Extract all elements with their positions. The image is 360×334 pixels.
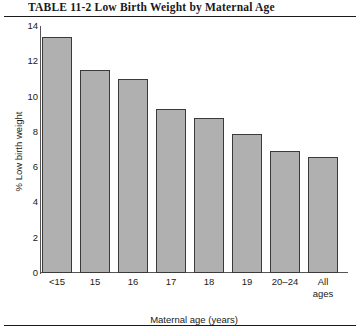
bar-slot <box>270 26 308 273</box>
x-tick-label: All ages <box>308 276 346 299</box>
y-tick-label: 8 <box>16 127 38 137</box>
bar-slot <box>232 26 270 273</box>
bar-slot <box>194 26 232 273</box>
x-tick-label: 16 <box>118 276 156 299</box>
y-tick-label: 0 <box>16 268 38 278</box>
x-axis-ticks: <15151617181920–24All ages <box>42 276 348 299</box>
title-divider <box>4 16 356 17</box>
bar[interactable] <box>308 157 338 273</box>
bar[interactable] <box>232 134 262 273</box>
y-tick-label: 6 <box>16 162 38 172</box>
x-axis-title: Maternal age (years) <box>40 314 348 325</box>
y-tick-label: 2 <box>16 233 38 243</box>
bar-slot <box>156 26 194 273</box>
y-tick-label: 4 <box>16 197 38 207</box>
table-title: TABLE 11-2 Low Birth Weight by Maternal … <box>28 1 275 13</box>
bar-slot <box>80 26 118 273</box>
x-tick-label: 18 <box>194 276 232 299</box>
bar[interactable] <box>270 151 300 273</box>
bar-chart: % Low birth weight 14121086420 <15151617… <box>0 18 360 318</box>
plot-area <box>42 26 348 273</box>
y-axis-ticks: 14121086420 <box>12 18 38 278</box>
figure-page: TABLE 11-2 Low Birth Weight by Maternal … <box>0 0 360 334</box>
x-tick-label: 15 <box>80 276 118 299</box>
bar[interactable] <box>42 37 72 273</box>
bar-series <box>42 26 348 273</box>
bar[interactable] <box>80 70 110 273</box>
bar-slot <box>118 26 156 273</box>
x-tick-label: 19 <box>232 276 270 299</box>
x-tick-label: 20–24 <box>270 276 308 299</box>
x-tick-label: <15 <box>42 276 80 299</box>
x-tick-label: 17 <box>156 276 194 299</box>
bottom-divider <box>4 325 356 326</box>
table-title-block: TABLE 11-2 Low Birth Weight by Maternal … <box>0 0 360 18</box>
bar[interactable] <box>156 109 186 273</box>
y-tick-label: 14 <box>16 21 38 31</box>
bar-slot <box>308 26 346 273</box>
y-tick-label: 10 <box>16 92 38 102</box>
bar-slot <box>42 26 80 273</box>
bar[interactable] <box>118 79 148 273</box>
bar[interactable] <box>194 118 224 273</box>
y-tick-label: 12 <box>16 56 38 66</box>
